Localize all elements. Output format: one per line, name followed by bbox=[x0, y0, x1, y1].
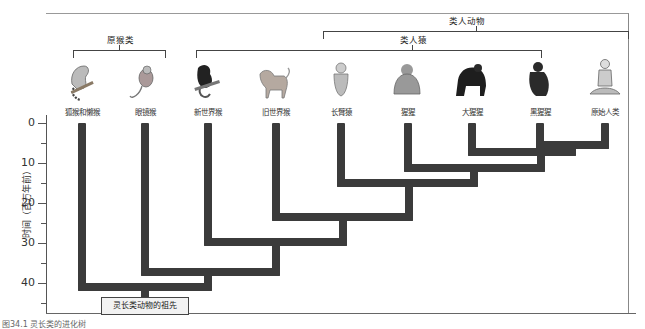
stem-root bbox=[141, 283, 149, 298]
taxon-label-tarsier: 眼镜猴 bbox=[135, 106, 156, 117]
y-axis bbox=[46, 115, 47, 314]
hominoidea-bracket bbox=[323, 31, 629, 39]
tick-label-40: 40 bbox=[15, 276, 35, 289]
tick-10 bbox=[38, 163, 46, 164]
y-axis-label: 时间（百万年前） bbox=[20, 162, 33, 242]
figure-caption: 图34.1 灵长类的进化树 bbox=[2, 318, 86, 329]
gorilla-icon bbox=[454, 56, 488, 100]
branch-lemur bbox=[78, 123, 86, 291]
tick-5 bbox=[41, 143, 46, 144]
prosimians-label: 原猴类 bbox=[107, 33, 134, 45]
tarsier-icon bbox=[126, 60, 160, 104]
node-gorilla bbox=[468, 148, 576, 156]
apes-label: 类人猿 bbox=[400, 33, 427, 45]
tick-40 bbox=[38, 283, 46, 284]
tick-45 bbox=[41, 303, 46, 304]
tick-15 bbox=[41, 183, 46, 184]
taxon-label-human: 原始人类 bbox=[591, 106, 619, 117]
branch-old-world-monkey bbox=[272, 123, 280, 221]
tick-25 bbox=[41, 223, 46, 224]
branch-tarsier bbox=[141, 123, 149, 276]
taxon-label-old-world-monkey: 旧世界猴 bbox=[262, 106, 290, 117]
tick-0 bbox=[38, 123, 46, 124]
old-world-monkey-icon bbox=[256, 60, 290, 104]
taxon-label-new-world-monkey: 新世界猴 bbox=[194, 106, 222, 117]
taxon-label-lemur: 狐猴和懒猴 bbox=[65, 106, 100, 117]
chimpanzee-icon bbox=[522, 58, 556, 102]
new-world-monkey-icon bbox=[190, 58, 224, 102]
tick-35 bbox=[41, 263, 46, 264]
primate-ancestor-box: 灵长类动物的祖先 bbox=[101, 297, 189, 315]
tick-label-0: 0 bbox=[15, 116, 35, 129]
lemur-icon bbox=[64, 58, 98, 102]
prosimians-bracket bbox=[73, 50, 166, 58]
tick-20 bbox=[38, 203, 46, 204]
orangutan-icon bbox=[390, 58, 424, 102]
taxon-label-chimpanzee: 黑猩猩 bbox=[530, 106, 551, 117]
taxon-label-gibbon: 长臂猿 bbox=[331, 106, 352, 117]
taxon-label-orangutan: 猩猩 bbox=[401, 106, 415, 117]
hominoidea-label: 类人动物 bbox=[449, 14, 485, 26]
gibbon-icon bbox=[324, 58, 358, 102]
apes-bracket bbox=[196, 50, 542, 58]
tick-30 bbox=[38, 243, 46, 244]
branch-gibbon bbox=[337, 123, 345, 187]
human-icon bbox=[588, 56, 622, 100]
branch-new-world-monkey bbox=[204, 123, 212, 246]
taxon-label-gorilla: 大猩猩 bbox=[462, 106, 483, 117]
